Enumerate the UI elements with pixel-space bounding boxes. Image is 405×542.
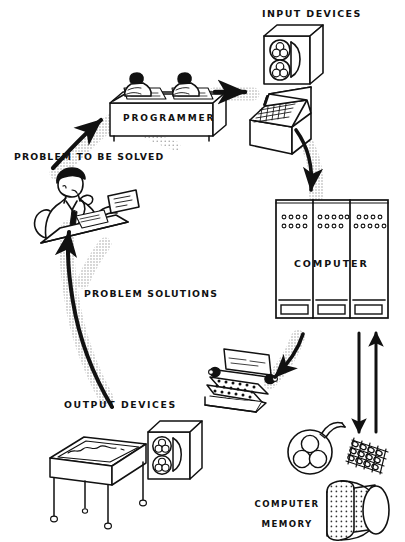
diagram-artwork [0, 0, 405, 542]
diagram-canvas: INPUT DEVICES PROGRAMMER PROBLEM TO BE S… [0, 0, 405, 542]
tape-drive-icon [148, 421, 202, 479]
magnetic-drum-icon [327, 481, 389, 540]
tape-drive-icon [264, 25, 323, 84]
mainframe-cabinets-icon [276, 200, 388, 318]
